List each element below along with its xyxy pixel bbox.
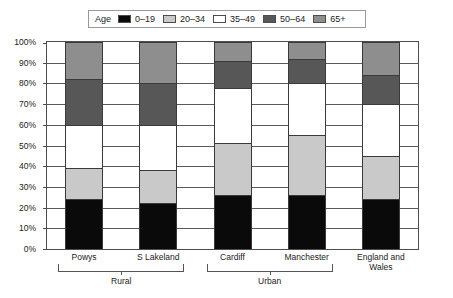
bar-england-and-wales[interactable] <box>362 42 400 249</box>
y-tick-20 <box>43 208 47 209</box>
y-axis: 0%10%20%30%40%50%60%70%80%90%100% <box>0 41 42 250</box>
bar-segment-powys-019[interactable] <box>66 199 102 249</box>
y-tick-90 <box>43 63 47 64</box>
legend-swatch-50-64 <box>263 15 276 23</box>
bar-segment-manchester-65+[interactable] <box>289 42 325 59</box>
y-tick-label-60: 60% <box>19 120 36 130</box>
bar-segment-s-lakeland-65+[interactable] <box>140 42 176 83</box>
bar-cardiff[interactable] <box>214 42 252 249</box>
legend-swatch-65-plus <box>313 15 326 23</box>
x-axis-label-manchester: Manchester <box>284 252 328 262</box>
bar-powys[interactable] <box>65 42 103 249</box>
legend-swatch-0-19 <box>118 15 131 23</box>
bar-segment-manchester-3549[interactable] <box>289 83 325 135</box>
legend-item-20-34: 20–34 <box>163 14 205 24</box>
y-tick-label-30: 30% <box>19 182 36 192</box>
y-tick-label-70: 70% <box>19 99 36 109</box>
bar-segment-cardiff-5064[interactable] <box>215 61 251 88</box>
bar-segment-england-and-wales-2034[interactable] <box>363 156 399 199</box>
bar-segment-manchester-5064[interactable] <box>289 59 325 84</box>
legend-title: Age <box>95 14 111 24</box>
x-axis-label-s-lakeland: S Lakeland <box>137 252 180 262</box>
y-tick-60 <box>43 125 47 126</box>
y-tick-100 <box>43 43 47 44</box>
bar-segment-powys-5064[interactable] <box>66 79 102 125</box>
group-bracket-urban <box>207 264 333 272</box>
legend-label-50-64: 50–64 <box>280 14 305 24</box>
y-tick-label-50: 50% <box>19 141 36 151</box>
legend-item-0-19: 0–19 <box>118 14 155 24</box>
group-label-rural: Rural <box>111 276 131 286</box>
y-tick-label-20: 20% <box>19 203 36 213</box>
y-tick-70 <box>43 104 47 105</box>
legend-item-50-64: 50–64 <box>263 14 305 24</box>
bar-segment-manchester-019[interactable] <box>289 195 325 249</box>
bar-segment-powys-65+[interactable] <box>66 42 102 79</box>
bar-segment-s-lakeland-3549[interactable] <box>140 125 176 171</box>
bar-segment-powys-3549[interactable] <box>66 125 102 168</box>
x-axis-label-powys: Powys <box>72 252 97 262</box>
percentage-stacked-bar-chart: Age 0–19 20–34 35–49 50–64 65+ 0%10%20%3… <box>0 0 453 298</box>
bar-segment-s-lakeland-5064[interactable] <box>140 83 176 124</box>
bar-segment-cardiff-65+[interactable] <box>215 42 251 61</box>
bar-segment-cardiff-3549[interactable] <box>215 88 251 144</box>
bar-segment-s-lakeland-2034[interactable] <box>140 170 176 203</box>
bar-segment-manchester-2034[interactable] <box>289 135 325 195</box>
legend-label-65-plus: 65+ <box>330 14 345 24</box>
bar-segment-powys-2034[interactable] <box>66 168 102 199</box>
bar-segment-england-and-wales-3549[interactable] <box>363 104 399 156</box>
legend-swatch-35-49 <box>213 15 226 23</box>
y-tick-10 <box>43 228 47 229</box>
bar-segment-s-lakeland-019[interactable] <box>140 203 176 249</box>
chart-legend: Age 0–19 20–34 35–49 50–64 65+ <box>88 10 366 28</box>
group-bracket-rural <box>58 264 184 272</box>
bar-s-lakeland[interactable] <box>139 42 177 249</box>
y-tick-50 <box>43 146 47 147</box>
legend-item-35-49: 35–49 <box>213 14 255 24</box>
x-axis-label-cardiff: Cardiff <box>220 252 245 262</box>
legend-label-35-49: 35–49 <box>230 14 255 24</box>
legend-label-20-34: 20–34 <box>180 14 205 24</box>
y-tick-80 <box>43 83 47 84</box>
y-tick-label-90: 90% <box>19 58 36 68</box>
y-tick-label-40: 40% <box>19 161 36 171</box>
x-axis-groups: RuralUrban <box>0 264 453 294</box>
bar-segment-cardiff-019[interactable] <box>215 195 251 249</box>
bar-segment-england-and-wales-5064[interactable] <box>363 75 399 104</box>
y-tick-30 <box>43 187 47 188</box>
bar-segment-england-and-wales-019[interactable] <box>363 199 399 249</box>
group-label-urban: Urban <box>258 276 281 286</box>
bar-segment-cardiff-2034[interactable] <box>215 143 251 195</box>
bar-segment-england-and-wales-65+[interactable] <box>363 42 399 75</box>
group-bracket-notch <box>121 271 122 275</box>
y-tick-label-80: 80% <box>19 78 36 88</box>
plot-area <box>46 41 419 250</box>
y-tick-40 <box>43 166 47 167</box>
group-bracket-notch <box>270 271 271 275</box>
legend-item-65-plus: 65+ <box>313 14 345 24</box>
y-tick-label-10: 10% <box>19 223 36 233</box>
y-tick-label-100: 100% <box>14 37 36 47</box>
y-tick-0 <box>43 249 47 250</box>
legend-swatch-20-34 <box>163 15 176 23</box>
bar-manchester[interactable] <box>288 42 326 249</box>
legend-label-0-19: 0–19 <box>135 14 155 24</box>
